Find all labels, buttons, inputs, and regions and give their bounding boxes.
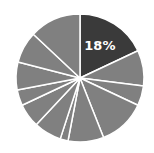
pie-chart: 18% xyxy=(0,0,154,153)
slice-percent-label: 18% xyxy=(84,38,115,53)
